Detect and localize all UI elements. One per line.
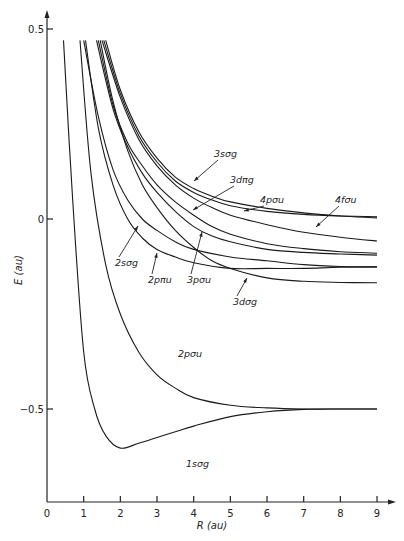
x-tick-label: 3 [154, 508, 160, 519]
energy-curves-chart: 0123456789 0.50−0.5 R (au) E (au) 3sσg3d… [0, 0, 404, 541]
x-tick-label: 8 [337, 508, 343, 519]
x-axis-label: R (au) [197, 520, 227, 531]
annotation-arrowhead [243, 278, 247, 283]
curve-label: 2pπu [148, 274, 172, 285]
annotation-arrowhead [193, 206, 198, 210]
annotation-leader [193, 186, 234, 210]
curve-label: 1sσg [186, 458, 209, 469]
x-tick-label: 5 [227, 508, 233, 519]
annotation-arrowhead [199, 232, 202, 237]
x-tick-label: 2 [117, 508, 123, 519]
curves [64, 40, 378, 448]
x-tick-label: 1 [80, 508, 86, 519]
x-tick-label: 7 [301, 508, 307, 519]
x-tick-label: 0 [44, 508, 50, 519]
annotations: 3sσg3dπg4pσu4fσu2sσg2pπu3pσu3dσg2pσu1sσg [115, 148, 356, 469]
curve-label: 4fσu [335, 194, 356, 205]
x-tick-label: 6 [264, 508, 270, 519]
annotation-leader [194, 160, 218, 181]
y-axis-label: E (au) [13, 255, 24, 285]
y-axis-arrow [45, 10, 50, 18]
curve-label: 4pσu [260, 194, 284, 205]
curve-label: 3pσu [187, 274, 211, 285]
curve-label: 3sσg [214, 148, 237, 159]
curve-1 [80, 40, 377, 409]
curve-label: 2pσu [178, 348, 202, 359]
axes [45, 10, 397, 505]
y-tick-label: 0.5 [28, 24, 44, 35]
annotation-leader [316, 206, 339, 227]
x-axis-arrow [388, 500, 396, 505]
curve-5 [98, 40, 377, 253]
curve-6 [100, 40, 377, 282]
x-tick-label: 4 [190, 508, 196, 519]
curve-9 [102, 40, 377, 241]
x-ticks: 0123456789 [44, 496, 380, 519]
y-ticks: 0.50−0.5 [20, 24, 53, 415]
curve-label: 3dσg [233, 296, 257, 307]
y-tick-label: 0 [38, 214, 44, 225]
y-tick-label: −0.5 [20, 404, 44, 415]
x-tick-label: 9 [374, 508, 380, 519]
annotation-leader [119, 226, 138, 257]
curve-label: 3dπg [230, 174, 254, 185]
curve-label: 2sσg [115, 257, 138, 268]
